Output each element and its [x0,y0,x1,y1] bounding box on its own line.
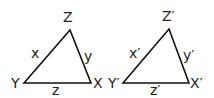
vertex-x-label: X [93,76,103,90]
side-x-prime-label: x′ [129,46,140,60]
vertex-x-prime-label: X′ [190,76,203,90]
vertex-z-label: Z [63,10,73,24]
side-z-label: z [52,83,59,97]
vertex-y-label: Y [11,76,20,90]
side-y-label: y [84,49,92,63]
side-y-prime-label: y′ [183,48,194,62]
side-x-label: x [31,46,39,60]
vertex-y-prime-label: Y′ [108,76,120,90]
side-z-prime-label: z′ [150,83,161,97]
vertex-z-prime-label: Z′ [162,9,175,23]
